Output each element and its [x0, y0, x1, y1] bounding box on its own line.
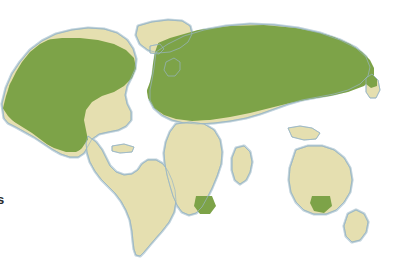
world-distribution-map-figure: s: [0, 0, 414, 269]
world-map-svg: [0, 0, 414, 269]
caption-text-fragment: s: [0, 193, 4, 206]
